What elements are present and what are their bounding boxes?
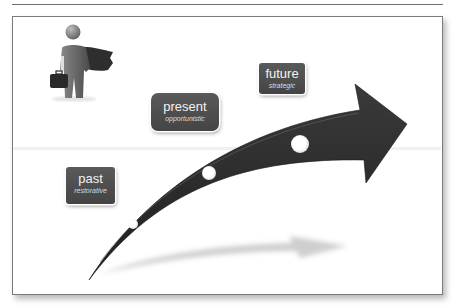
arrow-shadow: [100, 236, 347, 274]
stage-future-subtitle: strategic: [259, 81, 305, 90]
stage-present-title: present: [151, 93, 219, 114]
stage-present-subtitle: opportunistic: [151, 114, 219, 123]
superhero-businessman-icon: [50, 25, 113, 102]
stage-future-title: future: [259, 63, 305, 81]
stage-past-title: past: [66, 167, 115, 186]
stage-past-subtitle: restorative: [66, 186, 115, 195]
diagram-canvas: [0, 0, 453, 308]
milestone-dot-present: [202, 166, 216, 180]
milestone-dot-future: [291, 135, 309, 153]
stage-present: present opportunistic: [151, 93, 219, 131]
stage-future: future strategic: [259, 63, 305, 94]
milestone-dot-past: [128, 219, 138, 229]
stage-past: past restorative: [66, 167, 115, 204]
